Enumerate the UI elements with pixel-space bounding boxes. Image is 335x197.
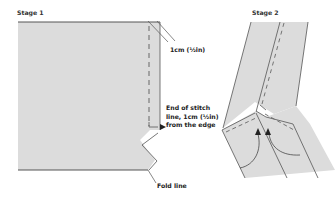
stage2-lower-strips <box>222 105 335 178</box>
seam-allowance-label: 1cm (½in) <box>170 46 205 55</box>
diagram-canvas <box>0 0 335 197</box>
stitch-end-line2: line, 1cm (½in) <box>166 113 219 122</box>
stitch-end-line1: End of stitch <box>166 104 219 113</box>
stitch-end-line3: from the edge <box>166 121 219 130</box>
stage1-title: Stage 1 <box>17 9 44 16</box>
stitch-end-label: End of stitch line, 1cm (½in) from the e… <box>166 104 219 130</box>
stage2-title: Stage 2 <box>252 9 279 16</box>
fold-line-leader <box>148 170 156 183</box>
stage1-fabric <box>18 22 160 170</box>
fold-line-label: Fold line <box>157 182 187 191</box>
